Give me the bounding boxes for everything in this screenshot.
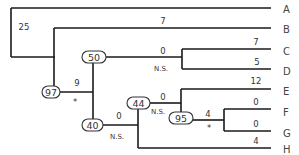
label-H: 4 — [253, 136, 258, 146]
label-D: 5 — [254, 57, 259, 67]
node-97: 97 — [42, 86, 60, 98]
taxon-E: E — [283, 86, 289, 97]
label-G: 0 — [253, 119, 258, 129]
label-C: 7 — [253, 37, 258, 47]
label-B: 7 — [160, 16, 165, 26]
node-40: 40 — [82, 119, 103, 131]
label-FG-length-sig: * — [207, 123, 211, 133]
node-95: 95 — [169, 112, 193, 124]
taxon-C: C — [283, 46, 290, 57]
node-44: 44 — [127, 97, 150, 109]
node-40-label: 40 — [86, 120, 98, 131]
label-FG-length: 4 — [205, 109, 210, 119]
label-EFG: 0 — [116, 111, 121, 121]
label-CD: 0 — [160, 46, 165, 56]
taxon-G: G — [283, 128, 291, 139]
taxon-F: F — [283, 107, 289, 118]
taxon-B: B — [283, 24, 290, 35]
branches — [11, 8, 271, 148]
node-95-label: 95 — [175, 113, 187, 124]
label-CD-sig: N.S. — [154, 65, 168, 73]
label-9: 9 — [74, 78, 79, 88]
node-97-label: 97 — [45, 87, 57, 98]
label-9-sig: * — [73, 97, 77, 107]
node-50-label: 50 — [88, 52, 100, 63]
label-E: 12 — [251, 76, 262, 86]
label-EFG-sig: N.S. — [110, 133, 124, 141]
label-F: 0 — [253, 97, 258, 107]
node-44-label: 44 — [132, 98, 144, 109]
phylogenetic-tree: 97 50 40 44 95 25 7 0 N.S. 7 5 9 * 0 N.S… — [0, 0, 299, 155]
taxon-A: A — [283, 4, 290, 15]
label-FG-sig: N.S. — [151, 108, 165, 116]
label-25: 25 — [19, 22, 30, 32]
node-50: 50 — [82, 51, 106, 63]
label-FG: 0 — [160, 92, 165, 102]
taxon-H: H — [283, 144, 291, 155]
taxon-D: D — [283, 66, 291, 77]
